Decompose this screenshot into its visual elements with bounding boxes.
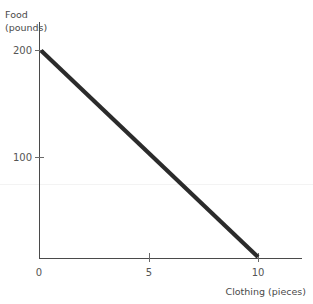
y-axis-title-line2: (pounds) <box>5 22 47 33</box>
budget-constraint-line <box>41 51 258 258</box>
x-tick-label-0: 0 <box>36 267 42 278</box>
x-axis-title: Clothing (pieces) <box>226 286 307 297</box>
x-tick-label-5: 5 <box>146 267 152 278</box>
y-axis-title-line1: Food <box>5 9 28 20</box>
x-tick-label-10: 10 <box>252 267 265 278</box>
chart-container: 200 100 0 5 10 Food (pounds) Clothing (p… <box>0 0 313 304</box>
line-chart: 200 100 0 5 10 Food (pounds) Clothing (p… <box>0 0 313 304</box>
y-tick-label-100: 100 <box>13 152 32 163</box>
y-tick-label-200: 200 <box>13 45 32 56</box>
